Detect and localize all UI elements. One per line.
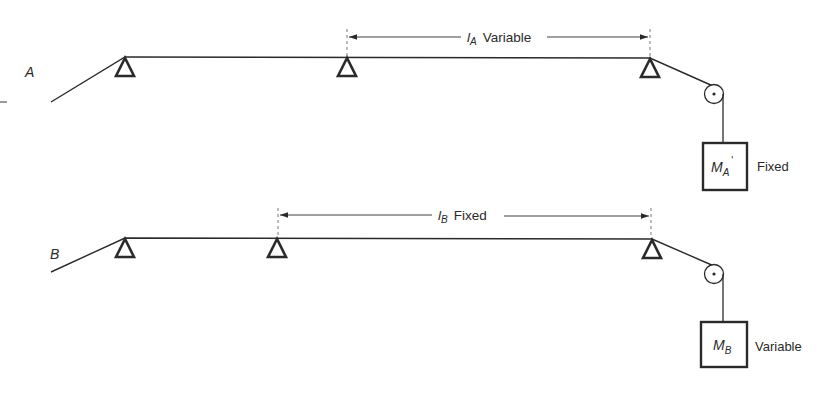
setup-a-support-2-icon (338, 58, 356, 76)
setup-b-pulley-axle (712, 272, 715, 275)
setup-a-wire (51, 57, 713, 102)
setup-b-support-1-icon (116, 239, 134, 257)
setup-b-label: B (50, 246, 59, 262)
setup-b-span-label: lBFixed (438, 208, 487, 225)
setup-b-support-2-icon (268, 239, 286, 257)
diagram-canvas: A lAVariable MA' Fixed B (0, 0, 837, 399)
setup-b-wire (51, 238, 714, 272)
setup-a-label: A (24, 64, 34, 80)
setup-a-mass-note: Fixed (757, 159, 789, 174)
setup-b-support-3-icon (643, 240, 661, 258)
setup-b: B lBFixed MB Variable (50, 208, 802, 367)
setup-b-mass-note: Variable (755, 339, 802, 354)
setup-a: A lAVariable MA' Fixed (24, 29, 789, 190)
setup-a-support-3-icon (641, 59, 659, 77)
setup-a-span-label: lAVariable (467, 30, 531, 47)
setup-a-pulley-axle (712, 92, 715, 95)
